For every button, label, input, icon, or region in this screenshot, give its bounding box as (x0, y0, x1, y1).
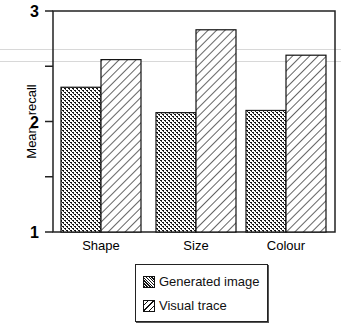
x-tick-label: Size (183, 238, 208, 253)
y-tick-label: 1 (30, 224, 39, 241)
legend-item-generated-image: Generated image (143, 274, 259, 289)
stipple-swatch-icon (143, 276, 155, 288)
bar-size-visual-trace (196, 30, 236, 232)
hatch-swatch-icon (143, 300, 155, 312)
y-tick-label: 3 (30, 3, 39, 20)
x-tick-label: Shape (82, 238, 120, 253)
legend-label: Visual trace (159, 298, 227, 313)
bar-shape-generated-image (61, 87, 101, 232)
bar-colour-generated-image (246, 110, 286, 232)
bar-shape-visual-trace (101, 60, 141, 232)
x-tick-label: Colour (267, 238, 306, 253)
legend-item-visual-trace: Visual trace (143, 298, 227, 313)
plot-area: 123Mean recallShapeSizeColour (24, 3, 335, 253)
bar-size-generated-image (156, 113, 196, 232)
legend-label: Generated image (159, 274, 259, 289)
legend: Generated image Visual trace (135, 264, 268, 322)
bar-colour-visual-trace (286, 55, 326, 232)
y-axis-label: Mean recall (24, 84, 39, 159)
